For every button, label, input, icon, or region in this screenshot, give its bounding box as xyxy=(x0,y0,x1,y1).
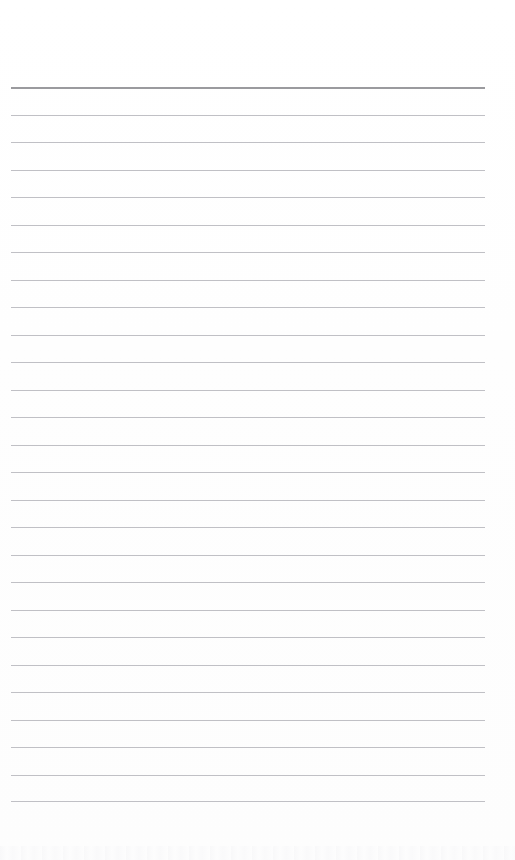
rule-line xyxy=(11,362,485,363)
rule-line xyxy=(11,170,485,171)
rule-line xyxy=(11,280,485,281)
ruled-lines-layer xyxy=(0,0,515,860)
rule-line xyxy=(11,115,485,116)
rule-line xyxy=(11,637,485,638)
rule-line xyxy=(11,142,485,143)
rule-line xyxy=(11,472,485,473)
rule-line xyxy=(11,252,485,253)
rule-line xyxy=(11,665,485,666)
rule-line xyxy=(11,335,485,336)
scanned-page xyxy=(0,0,515,860)
rule-line xyxy=(11,417,485,418)
rule-line xyxy=(11,747,485,748)
rule-line xyxy=(11,197,485,198)
rule-line xyxy=(11,445,485,446)
header-rule-line xyxy=(11,87,485,89)
rule-line xyxy=(11,500,485,501)
rule-line xyxy=(11,555,485,556)
rule-line xyxy=(11,527,485,528)
rule-line xyxy=(11,801,485,802)
rule-line xyxy=(11,390,485,391)
rule-line xyxy=(11,775,485,776)
rule-line xyxy=(11,225,485,226)
rule-line xyxy=(11,582,485,583)
rule-line xyxy=(11,720,485,721)
rule-line xyxy=(11,692,485,693)
rule-line xyxy=(11,307,485,308)
rule-line xyxy=(11,610,485,611)
